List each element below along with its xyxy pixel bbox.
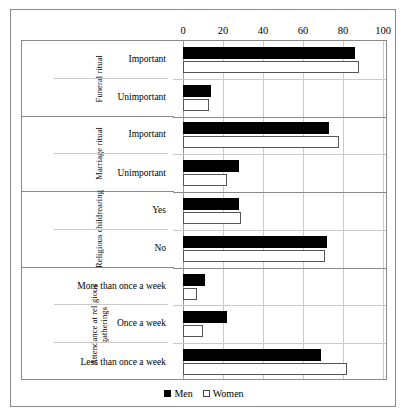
bar-men [183,160,239,172]
category-label: Unimportant [117,92,168,103]
group-attendance-at-religious-gatherings: Attendance at religious gatheringsMore t… [22,268,174,381]
row-separator [173,305,386,306]
bar-women [183,288,197,300]
category-label: Important [129,54,168,65]
category-labels: ImportantUnimportant [54,41,174,116]
category-label: Yes [152,205,168,216]
legend-label-men: Men [174,388,192,399]
gridline-80 [343,41,344,379]
x-tick-20: 20 [218,25,229,37]
chart-frame: 020406080100 Funeral ritualImportantUnim… [10,9,396,407]
x-tick-0: 0 [180,25,185,37]
category-row: Unimportant [54,79,168,117]
category-label: Unimportant [117,168,168,179]
group-separator [173,268,386,269]
bar-women [183,99,209,111]
bar-men [183,349,321,361]
category-labels: ImportantUnimportant [54,117,174,192]
group-funeral-ritual: Funeral ritualImportantUnimportant [22,41,174,117]
bar-women [183,250,325,262]
chart-legend: Men Women [11,388,397,399]
category-label: Important [129,129,168,140]
x-tick-100: 100 [375,25,391,37]
gridline-100 [383,41,384,379]
category-label: Less than once a week [81,357,168,368]
bar-women [183,325,203,337]
bar-men [183,47,355,59]
category-row: More than once a week [54,268,168,306]
x-axis-tick-labels: 020406080100 [11,25,397,41]
x-tick-80: 80 [338,25,349,37]
category-labels: YesNo [54,192,174,267]
legend-item-women: Women [203,388,244,399]
category-label: No [154,243,168,254]
category-row: Less than once a week [54,343,168,381]
plot-area: Funeral ritualImportantUnimportantMarria… [21,40,387,380]
bar-women [183,363,347,375]
bar-men [183,311,227,323]
group-religious-childrearing: Religious childrearingYesNo [22,192,174,268]
row-separator [173,343,386,344]
category-row: Once a week [54,305,168,343]
bar-men [183,274,205,286]
bar-men [183,85,211,97]
bar-women [183,212,241,224]
group-marriage-ritual: Marriage ritualImportantUnimportant [22,117,174,193]
bar-women [183,136,339,148]
bar-men [183,198,239,210]
category-row: Yes [54,192,168,230]
category-row: Important [54,117,168,155]
bar-women [183,174,227,186]
legend-swatch-women-icon [203,390,210,397]
bar-women [183,61,359,73]
category-label-column: Funeral ritualImportantUnimportantMarria… [21,40,173,380]
x-tick-40: 40 [258,25,269,37]
group-separator [173,117,386,118]
row-separator [173,154,386,155]
gridline-60 [303,41,304,379]
group-separator [173,192,386,193]
category-row: No [54,230,168,268]
gridline-20 [223,41,224,379]
gridline-40 [263,41,264,379]
category-row: Important [54,41,168,79]
legend-label-women: Women [213,388,244,399]
row-separator [173,230,386,231]
row-separator [173,79,386,80]
x-tick-60: 60 [298,25,309,37]
bars-column [173,40,387,380]
category-label: Once a week [117,318,168,329]
category-row: Unimportant [54,154,168,192]
category-label: More than once a week [77,281,168,292]
legend-swatch-men-icon [164,390,171,397]
bar-men [183,122,329,134]
category-labels: More than once a weekOnce a weekLess tha… [54,268,174,381]
legend-item-men: Men [164,388,192,399]
bar-men [183,236,327,248]
